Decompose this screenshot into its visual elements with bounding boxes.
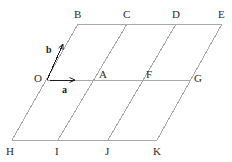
point-label-g: G (194, 73, 202, 84)
slanted-lines-group (12, 24, 222, 140)
point-label-d: D (172, 9, 180, 20)
point-label-j: J (105, 146, 109, 157)
point-label-b: B (74, 9, 81, 20)
slant-K-G-E (157, 24, 222, 140)
vector-label-a: a (62, 85, 67, 95)
point-label-h: H (6, 146, 14, 157)
point-label-k: K (153, 146, 161, 157)
slant-J-F-D (108, 24, 176, 140)
point-label-c: C (123, 9, 130, 20)
point-label-f: F (146, 69, 152, 80)
vector-label-b: b (46, 45, 52, 55)
point-label-e: E (218, 9, 225, 20)
geometry-diagram: BCDEOAFGHIJK ab (0, 0, 232, 162)
point-label-i: I (55, 146, 59, 157)
point-label-o: O (34, 73, 42, 84)
point-label-a: A (99, 69, 107, 80)
